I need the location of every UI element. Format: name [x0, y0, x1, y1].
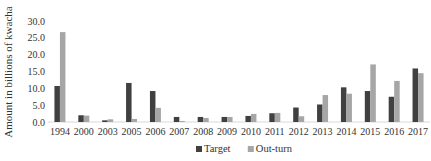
x-tick-label: 2011: [265, 126, 285, 137]
bar-target-2006: [150, 91, 156, 122]
bar-out-turn-2003: [108, 119, 114, 122]
x-tick-label: 2009: [217, 126, 237, 137]
bar-out-turn-2012: [299, 116, 305, 122]
bar-target-2003: [102, 120, 108, 122]
bar-out-turn-2005: [132, 119, 138, 122]
y-tick-label: 0.0: [33, 117, 46, 128]
bar-out-turn-2007: [179, 121, 185, 122]
x-tick-label: 1994: [50, 126, 70, 137]
bar-out-turn-2013: [323, 95, 329, 122]
y-tick-label: 20.0: [28, 49, 46, 60]
bar-out-turn-2006: [155, 108, 161, 122]
bar-out-turn-2010: [251, 114, 257, 122]
bar-target-2005: [126, 83, 132, 122]
bar-target-2011: [269, 113, 275, 122]
x-tick-label: 2008: [193, 126, 213, 137]
bar-target-1994: [54, 86, 60, 122]
x-axis-ticks: 1994200020032005200620072008200920102011…: [50, 126, 428, 137]
bar-target-2012: [293, 108, 299, 122]
x-tick-label: 2000: [74, 126, 94, 137]
x-tick-label: 2014: [336, 126, 356, 137]
bar-out-turn-2000: [84, 116, 90, 122]
bar-out-turn-2017: [418, 73, 424, 122]
legend: TargetOut-turn: [196, 143, 293, 154]
x-tick-label: 2017: [408, 126, 428, 137]
x-tick-label: 2016: [384, 126, 404, 137]
bar-target-2017: [413, 68, 419, 122]
y-tick-label: 5.0: [33, 100, 46, 111]
y-axis-ticks: 0.05.010.015.020.025.030.0: [28, 16, 46, 128]
bar-chart: Amount in billions of kwacha 0.05.010.01…: [0, 0, 431, 161]
y-tick-label: 25.0: [28, 32, 46, 43]
bars-group: [54, 32, 423, 122]
bar-target-2013: [317, 104, 323, 122]
bar-out-turn-2014: [346, 94, 352, 122]
bar-target-2016: [389, 97, 395, 122]
y-axis-label: Amount in billions of kwacha: [2, 6, 14, 137]
bar-target-2010: [245, 116, 251, 122]
bar-target-2014: [341, 87, 347, 122]
legend-label-out-turn: Out-turn: [256, 143, 293, 154]
y-tick-label: 15.0: [28, 66, 46, 77]
bar-out-turn-2016: [394, 81, 400, 122]
bar-out-turn-2015: [370, 64, 376, 122]
bar-target-2008: [198, 117, 204, 122]
y-tick-label: 10.0: [28, 83, 46, 94]
x-tick-label: 2005: [122, 126, 142, 137]
bar-target-2007: [174, 117, 180, 122]
y-tick-label: 30.0: [28, 16, 46, 27]
x-tick-label: 2010: [241, 126, 261, 137]
bar-out-turn-1994: [60, 32, 66, 122]
bar-target-2000: [78, 115, 84, 122]
x-tick-label: 2013: [313, 126, 333, 137]
x-tick-label: 2015: [360, 126, 380, 137]
bar-target-2015: [365, 91, 371, 122]
bar-out-turn-2009: [227, 117, 233, 122]
legend-swatch-out-turn: [248, 146, 254, 152]
x-tick-label: 2012: [289, 126, 309, 137]
bar-out-turn-2011: [275, 113, 281, 122]
x-tick-label: 2003: [98, 126, 118, 137]
bar-out-turn-2008: [203, 118, 209, 122]
x-tick-label: 2007: [169, 126, 189, 137]
legend-swatch-target: [196, 146, 202, 152]
legend-label-target: Target: [204, 143, 231, 154]
bar-target-2009: [222, 117, 228, 122]
x-tick-label: 2006: [145, 126, 165, 137]
